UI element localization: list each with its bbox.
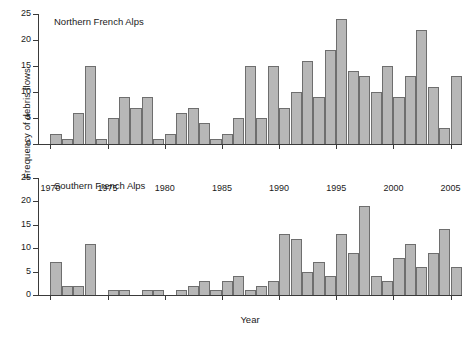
x-tick-northern-1985 [222, 145, 223, 149]
x-tick-northern-2005 [451, 145, 452, 149]
bar [176, 113, 187, 144]
y-tick-southern-0: 0 [33, 295, 38, 296]
bar [256, 286, 267, 295]
bar [188, 108, 199, 144]
y-tick-label-northern-5: 5 [26, 112, 31, 122]
bar [359, 76, 370, 144]
x-tick-northern-1995 [336, 145, 337, 149]
bar [405, 76, 416, 144]
x-tick-southern-1970 [50, 296, 51, 300]
bar [279, 108, 290, 144]
y-tick-northern-0: 0 [33, 144, 38, 145]
bar [119, 97, 130, 144]
bar [268, 66, 279, 144]
bar [256, 118, 267, 144]
bar [393, 97, 404, 144]
y-tick-southern-5: 5 [33, 272, 38, 273]
x-tick-label-2000: 2000 [383, 183, 403, 193]
bar [62, 139, 73, 144]
bar [405, 244, 416, 295]
bar [325, 50, 336, 144]
bar [348, 253, 359, 295]
bar [451, 76, 462, 144]
y-tick-label-northern-25: 25 [21, 8, 31, 18]
bar [268, 281, 279, 295]
x-tick-northern-1975 [108, 145, 109, 149]
bar [73, 286, 84, 295]
bar [85, 244, 96, 295]
bar [130, 108, 141, 144]
panel-northern-french-alps: Northern French Alps 0510152025 [38, 14, 462, 145]
x-tick-southern-1985 [222, 296, 223, 300]
y-tick-southern-10: 10 [33, 248, 38, 249]
y-tick-label-northern-0: 0 [26, 138, 31, 148]
bar [210, 290, 221, 295]
bar [85, 66, 96, 144]
bar [336, 234, 347, 295]
plot-area-southern: 0510152025197019751980198519901995200020… [38, 178, 462, 296]
bar [62, 286, 73, 295]
bar [108, 118, 119, 144]
bar [348, 71, 359, 144]
x-tick-southern-1990 [279, 296, 280, 300]
bar [73, 113, 84, 144]
bar [359, 206, 370, 295]
bar [153, 139, 164, 144]
bar [279, 234, 290, 295]
plot-area-northern: 0510152025 [38, 14, 462, 145]
bar [188, 286, 199, 295]
y-tick-northern-15: 15 [33, 66, 38, 67]
bar [451, 267, 462, 295]
bar [222, 281, 233, 295]
bar [302, 272, 313, 295]
x-tick-northern-1980 [165, 145, 166, 149]
bar [302, 61, 313, 144]
x-tick-southern-1995 [336, 296, 337, 300]
bar [245, 66, 256, 144]
bar [428, 87, 439, 144]
bar [142, 290, 153, 295]
bar-series-northern [39, 14, 462, 144]
bar [233, 276, 244, 295]
x-tick-label-1990: 1990 [269, 183, 289, 193]
y-tick-label-southern-0: 0 [26, 289, 31, 299]
y-tick-northern-25: 25 [33, 14, 38, 15]
bar [165, 134, 176, 144]
bar [382, 66, 393, 144]
bar [108, 290, 119, 295]
bar [325, 276, 336, 295]
bar [336, 19, 347, 144]
x-tick-label-1995: 1995 [326, 183, 346, 193]
bar [50, 134, 61, 144]
x-tick-label-1985: 1985 [212, 183, 232, 193]
bar [313, 97, 324, 144]
x-tick-northern-1990 [279, 145, 280, 149]
bar [371, 276, 382, 295]
bar [416, 267, 427, 295]
bar [439, 128, 450, 144]
bar [382, 281, 393, 295]
bar [222, 134, 233, 144]
bar [371, 92, 382, 144]
bar [245, 290, 256, 295]
y-tick-label-northern-20: 20 [21, 34, 31, 44]
bar [416, 30, 427, 144]
bar [199, 281, 210, 295]
y-tick-label-northern-10: 10 [21, 86, 31, 96]
x-axis-title: Year [38, 314, 462, 325]
y-tick-label-southern-10: 10 [21, 242, 31, 252]
y-tick-southern-25: 25 [33, 178, 38, 179]
x-tick-northern-1970 [50, 145, 51, 149]
bar [199, 123, 210, 144]
x-tick-southern-1975 [108, 296, 109, 300]
x-tick-label-1980: 1980 [155, 183, 175, 193]
bar [50, 262, 61, 295]
bar [291, 92, 302, 144]
y-tick-label-southern-20: 20 [21, 195, 31, 205]
bar [210, 139, 221, 144]
y-tick-label-southern-25: 25 [21, 172, 31, 182]
bar [119, 290, 130, 295]
x-tick-label-1970: 1970 [40, 183, 60, 193]
bar [439, 229, 450, 295]
y-tick-label-southern-15: 15 [21, 219, 31, 229]
